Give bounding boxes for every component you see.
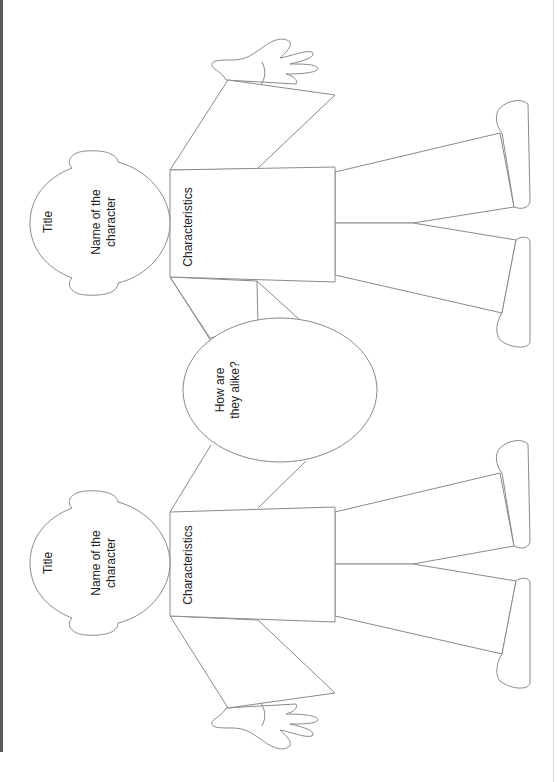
characteristics-label-bottom: Characteristics [181, 525, 196, 604]
leg-top-2 [335, 223, 516, 313]
characteristics-label-top: Characteristics [181, 187, 196, 266]
leg-bottom-2 [335, 564, 516, 654]
alike-label: How are they alike? [213, 361, 243, 418]
connector-top-right [257, 281, 300, 320]
name-label-bottom: Name of the character [89, 530, 119, 595]
hand-bottom [212, 704, 318, 749]
leg-top-1 [335, 133, 514, 223]
connector-bottom-right [258, 461, 306, 508]
diagram-canvas [0, 0, 557, 782]
name-label-bottom-line1: Name of the [89, 530, 104, 595]
title-label-bottom: Title [41, 552, 56, 574]
name-label-top-line2: character [104, 189, 119, 254]
name-label-top-line1: Name of the [89, 189, 104, 254]
arm-top [170, 80, 335, 170]
name-label-top: Name of the character [89, 189, 119, 254]
alike-label-line2: they alike? [228, 361, 243, 418]
name-label-bottom-line2: character [104, 530, 119, 595]
hand-top [212, 39, 318, 84]
connector-bottom-left [170, 445, 211, 512]
arm-bottom [170, 616, 335, 708]
leg-bottom-1 [335, 473, 514, 564]
title-label-top: Title [41, 211, 56, 233]
alike-label-line1: How are [213, 361, 228, 418]
